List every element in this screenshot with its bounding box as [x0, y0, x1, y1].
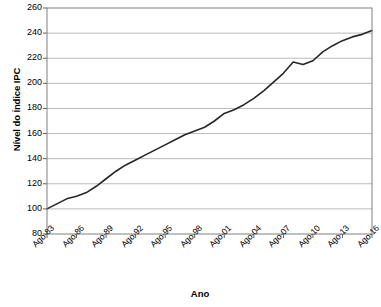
y-tick-label: 160	[16, 129, 42, 138]
gridlines	[47, 33, 372, 209]
data-line-series	[47, 31, 372, 209]
y-tick-label: 240	[16, 28, 42, 37]
y-tick-label: 220	[16, 53, 42, 62]
y-axis-tick-marks	[43, 8, 47, 234]
y-tick-label: 140	[16, 154, 42, 163]
y-axis-tick-labels: 26024022020018016014012010080	[14, 0, 42, 307]
y-tick-label: 180	[16, 103, 42, 112]
y-tick-label: 120	[16, 179, 42, 188]
y-tick-label: 260	[16, 3, 42, 12]
y-tick-label: 200	[16, 78, 42, 87]
plot-frame	[47, 8, 372, 234]
x-axis-title: Ano	[175, 288, 225, 299]
y-tick-label: 100	[16, 204, 42, 213]
